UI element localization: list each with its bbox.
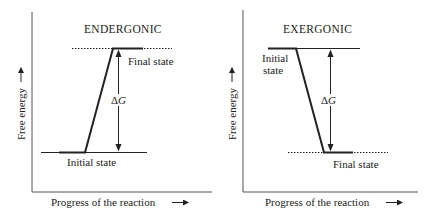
initial-state-label: Initial state [67, 156, 116, 168]
x-axis-label: Progress of the reaction [265, 196, 370, 208]
arrow-down-icon [328, 144, 334, 152]
energy-diagrams: Free energy Progress of the reaction END… [0, 0, 438, 214]
reaction-path [296, 49, 324, 153]
reaction-path [85, 49, 113, 153]
y-axis-label: Free energy [15, 87, 27, 140]
endergonic-panel: Free energy Progress of the reaction END… [15, 12, 212, 208]
delta-g-label: ΔG [111, 94, 126, 106]
panel-title: EXERGONIC [283, 23, 352, 35]
x-axis-label: Progress of the reaction [51, 196, 156, 208]
initial-state-label: Initial [262, 52, 288, 64]
arrow-up-icon [116, 50, 122, 58]
y-axis-label: Free energy [226, 87, 238, 140]
exergonic-panel: Free energy Progress of the reaction EXE… [226, 10, 418, 208]
arrow-up-icon [328, 50, 334, 58]
delta-g-label: ΔG [321, 94, 336, 106]
arrow-down-icon [116, 144, 122, 152]
initial-state-label-line2: state [263, 64, 283, 76]
final-state-label: Final state [333, 158, 379, 170]
panel-title: ENDERGONIC [84, 23, 162, 35]
final-state-label: Final state [128, 55, 174, 67]
